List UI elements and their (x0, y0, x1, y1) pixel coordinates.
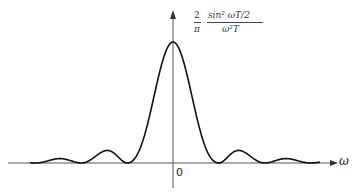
expression-fraction-bar (207, 22, 263, 23)
x-axis-label: ω (339, 154, 349, 168)
expression-denominator: ω²T (222, 24, 239, 35)
coefficient-numerator: 2 (194, 10, 200, 21)
expression-numerator: sin² ωT/2 (208, 10, 250, 21)
coefficient-fraction-bar (194, 22, 201, 23)
y-axis-arrowhead-icon (170, 10, 176, 19)
coefficient-denominator: π (194, 24, 200, 35)
origin-label: 0 (176, 166, 183, 179)
x-axis-arrowhead-icon (330, 160, 338, 166)
plot-canvas (0, 0, 362, 192)
sinc-squared-curve (30, 42, 320, 163)
